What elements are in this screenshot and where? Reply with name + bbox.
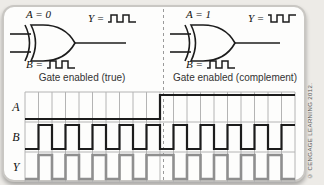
waveform-trace-b	[25, 125, 295, 149]
timing-row-label-b: B	[9, 130, 23, 145]
timing-row-label-a: A	[9, 100, 23, 115]
timing-diagram	[0, 0, 324, 185]
copyright-credit: © CENGAGE LEARNING 2012.	[307, 51, 319, 179]
timing-row-label-y: Y	[9, 160, 23, 175]
